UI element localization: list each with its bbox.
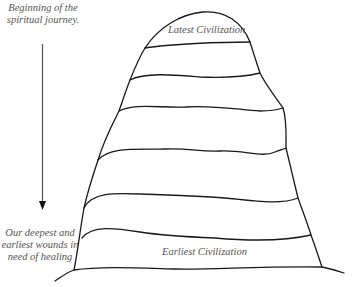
earliest-civilization-label: Earliest Civilization bbox=[162, 246, 247, 258]
layer-band-1 bbox=[145, 42, 250, 48]
latest-civilization-label: Latest Civilization bbox=[168, 24, 245, 36]
start-note-line-1: Beginning of the bbox=[4, 2, 82, 14]
civilization-layers-diagram: Beginning of the spiritual journey. Our … bbox=[0, 0, 352, 287]
layer-band-5 bbox=[84, 194, 298, 208]
end-note-line-1: Our deepest and bbox=[0, 227, 80, 239]
end-note-line-3: need of healing bbox=[0, 251, 80, 263]
end-note: Our deepest and earliest wounds in need … bbox=[0, 227, 80, 263]
layer-band-2 bbox=[130, 73, 260, 80]
layer-band-4 bbox=[98, 148, 286, 160]
down-arrow-icon bbox=[39, 44, 46, 210]
layer-band-6 bbox=[82, 229, 311, 240]
end-note-line-2: earliest wounds in bbox=[0, 239, 80, 251]
layer-band-3 bbox=[119, 106, 283, 111]
base-line bbox=[55, 267, 344, 281]
start-note: Beginning of the spiritual journey. bbox=[4, 2, 82, 26]
mountain-outline bbox=[74, 12, 322, 270]
start-note-line-2: spiritual journey. bbox=[4, 14, 82, 26]
